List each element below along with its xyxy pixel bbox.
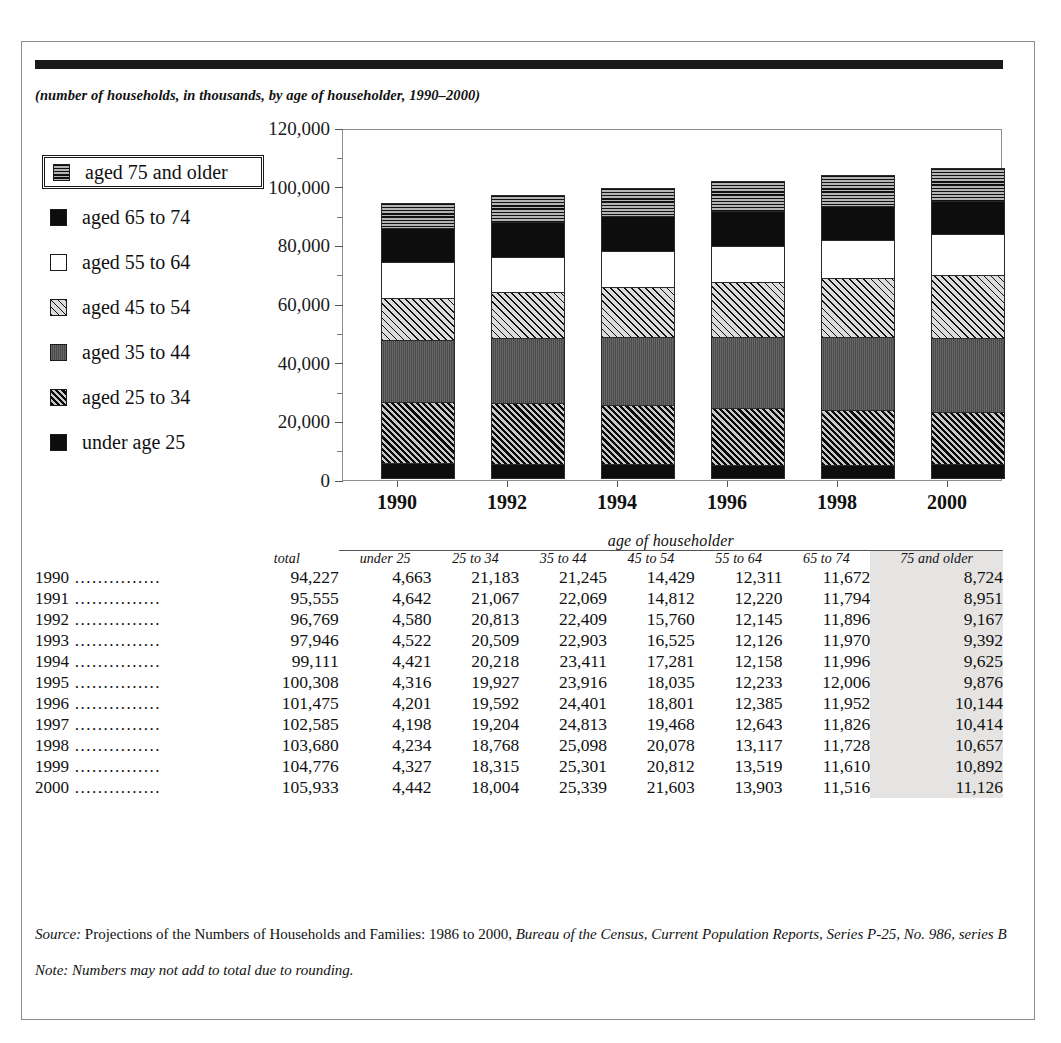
cell-age-4: 18,801 — [607, 693, 695, 714]
cell-age-7: 10,414 — [870, 714, 1003, 735]
legend-item-under-age-25[interactable]: under age 25 — [44, 430, 279, 454]
note-label: Note: — [35, 962, 68, 978]
stacked-bar-2000[interactable] — [931, 168, 1005, 479]
stacked-bar-1990[interactable] — [381, 203, 455, 479]
x-axis-tick-label: 1998 — [817, 491, 857, 514]
column-header-year — [35, 551, 235, 568]
cell-age-1: 4,198 — [339, 714, 432, 735]
x-axis-tick — [727, 481, 728, 487]
bar-segment-aged-45-to-54 — [712, 283, 784, 338]
legend-item-aged-25-to-34[interactable]: aged 25 to 34 — [44, 385, 279, 409]
legend-item-label: under age 25 — [82, 432, 185, 452]
stacked-bar-1994[interactable] — [601, 188, 675, 479]
stacked-bar-1996[interactable] — [711, 181, 785, 479]
cell-age-3: 24,401 — [519, 693, 607, 714]
cell-age-3: 23,411 — [519, 651, 607, 672]
row-year: 1996 — [35, 694, 69, 713]
table-column-header-row: totalunder 2525 to 3435 to 4445 to 5455 … — [35, 551, 1003, 568]
row-year: 1995 — [35, 673, 69, 692]
x-axis-tick — [617, 481, 618, 487]
table-row: 1999 ...............104,7764,32718,31525… — [35, 756, 1003, 777]
stacked-bar-1992[interactable] — [491, 195, 565, 479]
legend-item-label: aged 65 to 74 — [82, 207, 190, 227]
legend-swatch-diagonal-hatch-light-icon — [50, 299, 67, 316]
x-axis-tick-label: 1996 — [707, 491, 747, 514]
column-header-total: total — [235, 551, 339, 568]
bar-segment-aged-35-to-44 — [932, 339, 1004, 413]
y-axis-tick-label: 60,000 — [278, 294, 330, 316]
bar-segment-aged-45-to-54 — [492, 293, 564, 339]
bar-segment-aged-65-to-74 — [382, 229, 454, 263]
cell-age-7: 9,876 — [870, 672, 1003, 693]
cell-age-1: 4,234 — [339, 735, 432, 756]
cell-age-1: 4,201 — [339, 693, 432, 714]
cell-age-4: 15,760 — [607, 609, 695, 630]
cell-total: 101,475 — [235, 693, 339, 714]
y-axis-major-tick — [335, 363, 343, 364]
table-row: 1997 ...............102,5854,19819,20424… — [35, 714, 1003, 735]
stacked-bar-1998[interactable] — [821, 175, 895, 479]
cell-total: 94,227 — [235, 567, 339, 588]
cell-age-3: 22,903 — [519, 630, 607, 651]
cell-age-6: 11,672 — [783, 567, 871, 588]
cell-total: 97,946 — [235, 630, 339, 651]
legend-item-aged-75-and-older[interactable]: aged 75 and older — [44, 157, 262, 187]
row-year-label: 1995 ............... — [35, 672, 235, 693]
cell-age-5: 12,385 — [695, 693, 783, 714]
y-axis-tick-label: 100,000 — [268, 177, 330, 199]
bar-segment-aged-45-to-54 — [822, 279, 894, 338]
column-header-65-to-74: 65 to 74 — [783, 551, 871, 568]
table-body: 1990 ...............94,2274,66321,18321,… — [35, 567, 1003, 798]
legend-swatch-solid-black-icon — [50, 434, 67, 451]
dot-leader: ............... — [69, 568, 161, 587]
row-year-label: 1994 ............... — [35, 651, 235, 672]
bar-segment-aged-65-to-74 — [822, 207, 894, 241]
row-year-label: 1996 ............... — [35, 693, 235, 714]
cell-age-3: 25,098 — [519, 735, 607, 756]
legend-item-aged-45-to-54[interactable]: aged 45 to 54 — [44, 295, 279, 319]
cell-age-5: 12,220 — [695, 588, 783, 609]
legend-swatch-horizontal-lines-gray-icon — [53, 164, 70, 181]
data-table-container: age of householder totalunder 2525 to 34… — [35, 532, 1003, 798]
legend-swatch-solid-black-icon — [50, 209, 67, 226]
row-year: 1998 — [35, 736, 69, 755]
dot-leader: ............... — [69, 652, 161, 671]
row-year-label: 1990 ............... — [35, 567, 235, 588]
legend-item-aged-65-to-74[interactable]: aged 65 to 74 — [44, 205, 279, 229]
cell-age-4: 16,525 — [607, 630, 695, 651]
cell-age-6: 11,826 — [783, 714, 871, 735]
legend-item-aged-35-to-44[interactable]: aged 35 to 44 — [44, 340, 279, 364]
x-axis-tick — [837, 481, 838, 487]
table-row: 1993 ...............97,9464,52220,50922,… — [35, 630, 1003, 651]
y-axis-major-tick — [335, 422, 343, 423]
bar-segment-aged-25-to-34 — [382, 403, 454, 465]
cell-age-6: 11,896 — [783, 609, 871, 630]
y-axis-tick-label: 20,000 — [278, 411, 330, 433]
column-header-55-to-64: 55 to 64 — [695, 551, 783, 568]
cell-age-1: 4,421 — [339, 651, 432, 672]
y-axis-minor-tick — [337, 217, 343, 218]
x-axis-tick-label: 2000 — [927, 491, 967, 514]
cell-age-2: 18,004 — [432, 777, 520, 798]
bar-segment-aged-35-to-44 — [822, 338, 894, 411]
legend-item-label: aged 25 to 34 — [82, 387, 190, 407]
legend-item-aged-55-to-64[interactable]: aged 55 to 64 — [44, 250, 279, 274]
row-year: 1991 — [35, 589, 69, 608]
x-axis-tick-label: 1994 — [597, 491, 637, 514]
legend-item-label: aged 55 to 64 — [82, 252, 190, 272]
bar-segment-aged-45-to-54 — [932, 276, 1004, 339]
spacer-cell — [35, 532, 235, 551]
bar-segment-aged-75-and-older — [602, 189, 674, 217]
document-page: (number of households, in thousands, by … — [21, 41, 1035, 1020]
bar-segment-aged-35-to-44 — [492, 339, 564, 404]
bar-segment-aged-55-to-64 — [492, 258, 564, 293]
cell-total: 99,111 — [235, 651, 339, 672]
table-head: age of householder totalunder 2525 to 34… — [35, 532, 1003, 567]
dot-leader: ............... — [69, 715, 161, 734]
cell-age-2: 20,218 — [432, 651, 520, 672]
cell-age-3: 25,339 — [519, 777, 607, 798]
row-year-label: 1999 ............... — [35, 756, 235, 777]
bar-segment-aged-25-to-34 — [822, 411, 894, 466]
cell-age-3: 22,069 — [519, 588, 607, 609]
bar-segment-aged-75-and-older — [492, 196, 564, 223]
